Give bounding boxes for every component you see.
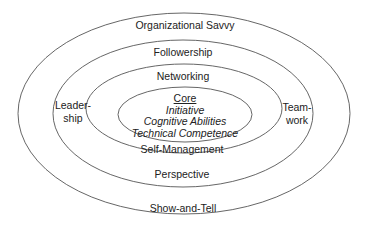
core-item-technical-competence: Technical Competence <box>132 128 238 140</box>
label-show-and-tell: Show-and-Tell <box>150 202 217 214</box>
core-title: Core <box>132 93 238 105</box>
core-item-cognitive-abilities: Cognitive Abilities <box>132 116 238 128</box>
label-teamwork-line2: work <box>282 114 311 127</box>
label-leadership-line2: ship <box>55 112 91 125</box>
label-teamwork: Team- work <box>282 101 311 127</box>
label-leadership-line1: Leader- <box>55 99 91 112</box>
label-leadership: Leader- ship <box>55 99 91 125</box>
label-teamwork-line1: Team- <box>282 101 311 114</box>
label-organizational-savvy: Organizational Savvy <box>135 19 234 31</box>
core-block: Core Initiative Cognitive Abilities Tech… <box>132 93 238 139</box>
label-self-management: Self-Management <box>141 143 224 155</box>
label-networking: Networking <box>157 70 210 82</box>
label-perspective: Perspective <box>155 168 210 180</box>
label-followership: Followership <box>154 46 213 58</box>
